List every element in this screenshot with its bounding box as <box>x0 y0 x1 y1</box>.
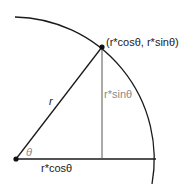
angle-label: θ <box>26 147 32 158</box>
point-coordinate-label: (r*cosθ, r*sinθ) <box>106 37 179 48</box>
polar-diagram <box>0 0 186 193</box>
radius-label: r <box>49 96 53 107</box>
sine-label: r*sinθ <box>104 89 132 100</box>
cosine-label: r*cosθ <box>41 163 72 174</box>
circle-point <box>99 44 104 49</box>
radius-line <box>16 47 102 159</box>
origin-point <box>13 156 18 161</box>
